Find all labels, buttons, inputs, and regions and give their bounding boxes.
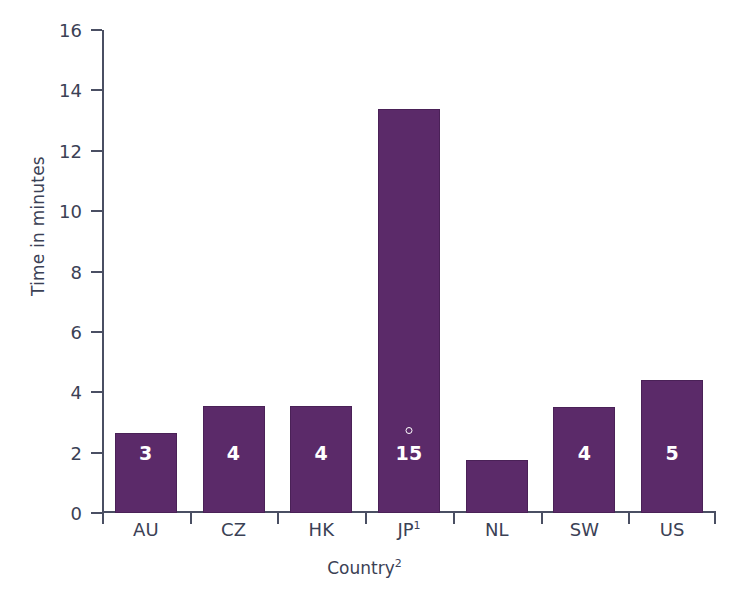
x-axis-label-au: AU [102, 519, 190, 540]
bar-value-label: 3 [116, 442, 176, 464]
y-tick: 4 [91, 391, 102, 393]
bar-cz[interactable]: 4 [203, 406, 265, 513]
y-tick: 0 [91, 512, 102, 514]
x-label-text: NL [485, 519, 509, 540]
x-axis-label-cz: CZ [190, 519, 278, 540]
y-tick-label: 14 [59, 80, 82, 101]
plot-area: 0246810121416 34415245 [102, 30, 716, 513]
y-tick: 8 [91, 271, 102, 273]
bar-value-label: 4 [554, 442, 614, 464]
y-tick-label: 6 [71, 321, 82, 342]
y-tick: 16 [91, 29, 102, 31]
bar-annotation-marker [406, 427, 413, 434]
x-label-superscript: 1 [414, 519, 421, 532]
y-tick: 12 [91, 150, 102, 152]
x-axis-label-jp: JP1 [365, 519, 453, 540]
y-tick-label: 8 [71, 261, 82, 282]
bar-value-label: 2 [467, 442, 527, 464]
x-label-text: HK [309, 519, 334, 540]
bar-us[interactable]: 5 [641, 380, 703, 513]
y-tick-label: 4 [71, 382, 82, 403]
x-axis-label-sw: SW [541, 519, 629, 540]
y-tick-label: 12 [59, 140, 82, 161]
bar-value-label: 15 [379, 442, 439, 464]
bar-sw[interactable]: 4 [553, 407, 615, 513]
y-tick-label: 16 [59, 20, 82, 41]
y-tick: 6 [91, 331, 102, 333]
bar-jp[interactable]: 15 [378, 109, 440, 514]
x-label-text: CZ [221, 519, 246, 540]
x-axis-label-us: US [628, 519, 716, 540]
x-label-text: AU [133, 519, 159, 540]
bar-nl[interactable]: 2 [466, 460, 528, 513]
y-tick: 10 [91, 210, 102, 212]
bars-layer: 34415245 [102, 30, 716, 513]
bar-value-label: 5 [642, 442, 702, 464]
x-axis-title: Country2 [0, 557, 729, 578]
x-label-text: US [660, 519, 685, 540]
y-tick-label: 10 [59, 201, 82, 222]
y-tick: 14 [91, 89, 102, 91]
y-axis-title: Time in minutes [28, 126, 48, 326]
y-tick-label: 0 [71, 503, 82, 524]
bar-hk[interactable]: 4 [290, 406, 352, 513]
y-tick: 2 [91, 452, 102, 454]
bar-au[interactable]: 3 [115, 433, 177, 513]
y-tick-label: 2 [71, 442, 82, 463]
x-axis-label-hk: HK [277, 519, 365, 540]
x-axis-label-nl: NL [453, 519, 541, 540]
bar-value-label: 4 [204, 442, 264, 464]
x-axis-title-superscript: 2 [395, 557, 402, 570]
x-label-text: SW [570, 519, 599, 540]
x-axis-title-text: Country [327, 558, 395, 578]
x-label-text: JP [397, 519, 413, 540]
bar-value-label: 4 [291, 442, 351, 464]
bar-chart: Time in minutes 0246810121416 34415245 A… [0, 0, 729, 604]
